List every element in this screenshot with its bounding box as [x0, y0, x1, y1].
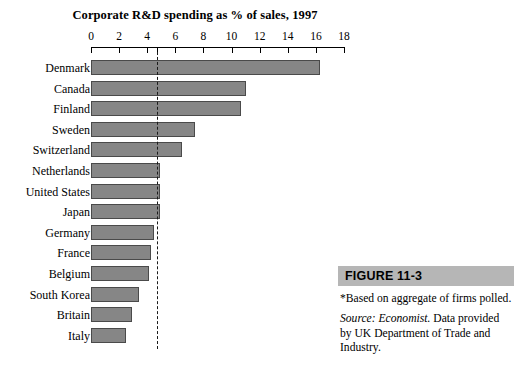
figure-source: Source: Economist. Data provided by UK D…	[340, 312, 512, 355]
bar	[91, 307, 132, 322]
bar-row: Germany	[0, 224, 521, 244]
bar	[91, 163, 160, 178]
x-axis-tick	[260, 47, 261, 53]
bar-category-label: France	[0, 246, 90, 261]
bar-row: Switzerland	[0, 141, 521, 161]
x-axis-tick-label: 12	[249, 30, 271, 42]
bar-category-label: South Korea	[0, 288, 90, 303]
bar-row: Finland	[0, 100, 521, 120]
bar	[91, 122, 195, 137]
figure-number-label: FIGURE 11-3	[338, 266, 514, 286]
x-axis-line	[91, 47, 344, 48]
x-axis-tick	[175, 47, 176, 53]
x-axis-tick-label: 0	[80, 30, 102, 42]
bar-category-label: Switzerland	[0, 143, 90, 158]
bar-category-label: Sweden	[0, 123, 90, 138]
bar	[91, 225, 154, 240]
x-axis-tick	[91, 47, 92, 53]
figure-caption-box: FIGURE 11-3 *Based on aggregate of firms…	[338, 266, 514, 356]
x-axis-tick	[147, 47, 148, 53]
bar-category-label: Canada	[0, 82, 90, 97]
bar-category-label: Germany	[0, 226, 90, 241]
x-axis-tick	[288, 47, 289, 53]
x-axis: 024681012141618	[91, 47, 344, 57]
bar-category-label: Finland	[0, 102, 90, 117]
x-axis-tick-label: 6	[164, 30, 186, 42]
average-reference-line	[157, 52, 158, 349]
bar-row: United States	[0, 183, 521, 203]
bar-category-label: Belgium	[0, 267, 90, 282]
x-axis-tick-label: 10	[221, 30, 243, 42]
bar	[91, 81, 246, 96]
bar	[91, 328, 126, 343]
bar	[91, 204, 160, 219]
bar-row: France	[0, 244, 521, 264]
bar	[91, 245, 151, 260]
x-axis-tick-label: 14	[277, 30, 299, 42]
bar-category-label: United States	[0, 185, 90, 200]
bar-category-label: Italy	[0, 329, 90, 344]
figure-caption-body: *Based on aggregate of firms polled. Sou…	[338, 286, 514, 356]
bar	[91, 266, 149, 281]
bar	[91, 184, 160, 199]
x-axis-tick	[316, 47, 317, 53]
x-axis-tick-label: 4	[136, 30, 158, 42]
bar	[91, 60, 320, 75]
bar-row: Netherlands	[0, 162, 521, 182]
figure-source-prefix: Source: Economist.	[340, 312, 430, 325]
bar-row: Japan	[0, 203, 521, 223]
bar-category-label: Denmark	[0, 61, 90, 76]
bar-row: Canada	[0, 80, 521, 100]
x-axis-tick-label: 16	[305, 30, 327, 42]
x-axis-tick-label: 2	[108, 30, 130, 42]
bar-category-label: Japan	[0, 205, 90, 220]
x-axis-tick	[119, 47, 120, 53]
bar	[91, 142, 182, 157]
bar-category-label: Netherlands	[0, 164, 90, 179]
bar-category-label: Britain	[0, 308, 90, 323]
figure-note: *Based on aggregate of firms polled.	[340, 292, 512, 306]
bar	[91, 101, 241, 116]
x-axis-tick	[232, 47, 233, 53]
x-axis-tick	[203, 47, 204, 53]
bar-row: Denmark	[0, 59, 521, 79]
x-axis-tick	[344, 47, 345, 53]
x-axis-tick-label: 18	[333, 30, 355, 42]
bar-row: Sweden	[0, 121, 521, 141]
bar	[91, 287, 139, 302]
x-axis-tick-label: 8	[192, 30, 214, 42]
